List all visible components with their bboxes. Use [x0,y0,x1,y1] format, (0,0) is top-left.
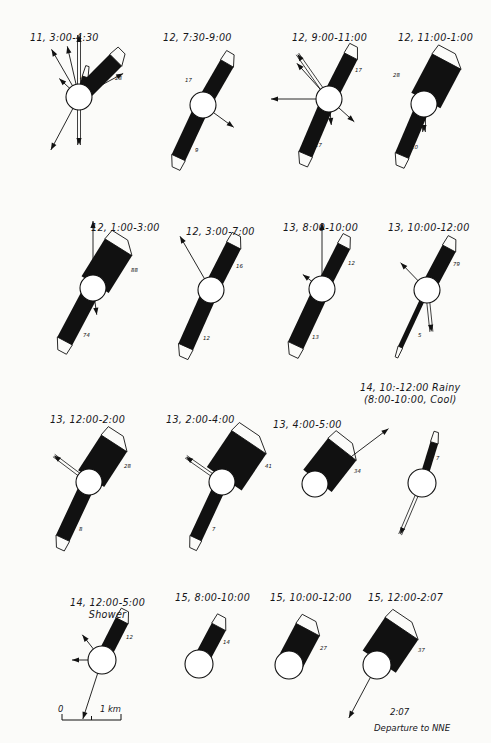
arrow-shaft [83,670,99,719]
plume-vector-layer [0,0,491,743]
observation-circle [363,651,391,679]
panel-title-text: 12, 1:00-3:00 [91,222,160,233]
plume-value-label: 16 [236,263,243,269]
observation-circle [302,471,328,497]
plume-value-label: 10 [411,144,418,150]
arrow-head [180,236,186,243]
arrow-head [271,96,278,101]
plume-value-label: 27 [320,645,327,651]
arrow-1 [427,301,434,332]
plume-value-label: 17 [355,67,362,73]
scale-bar-zero-label: 0 [58,704,63,714]
arrow-shaft [349,675,372,718]
arrow-0 [399,493,419,536]
plume-value-label: 34 [354,468,361,474]
panel-title-text: 12, 3:00-7:00 [186,226,255,237]
panel-title-text: 12, 7:30-9:00 [163,32,232,43]
plume-value-label: 79 [453,261,460,267]
plume-value-label: 37 [418,647,425,653]
panel-title-p9: 13, 12:00-2:00 [50,414,125,426]
arrow-0 [212,111,234,127]
arrow-shaft [51,107,74,150]
plume-value-label: 74 [83,332,90,338]
panel-title-text: 11, 3:00-4:30 [30,32,99,43]
plume-cap [430,431,438,444]
arrow-1 [297,63,322,90]
panel-title-p1: 11, 3:00-4:30 [30,32,99,44]
scale-bar-length-label: 1 km [100,704,121,714]
arrow-head [52,49,58,56]
panel-title-text: 14, 12:00-5:00 [70,597,145,608]
panel-title-p10: 13, 2:00-4:00 [166,414,235,426]
panel-title-p13: 14, 12:00-5:00Shower [70,597,145,621]
panel-p14 [185,614,226,678]
arrow-head [227,121,234,127]
arrow-0 [296,53,324,91]
plume-value-label: 14 [223,639,230,645]
arrow-2 [271,96,318,101]
plume-value-label: 28 [115,75,122,81]
plume-value-label: 13 [312,334,319,340]
panel-title-text: 13, 12:00-2:00 [50,414,125,425]
panel-subtitle-text: (8:00-10:00, Cool) [360,394,461,406]
panel-p4 [395,45,461,168]
panel-p5 [57,221,132,354]
observation-circle [275,651,303,679]
arrow-0 [349,675,372,718]
panel-title-text: 13, 4:00-5:00 [273,419,342,430]
panel-title-p12: 14, 10:-12:00 Rainy(8:00-10:00, Cool) [360,382,461,406]
arrow-head [349,711,355,718]
observation-circle [190,92,216,118]
scale-bar [62,714,121,720]
panel-p16 [349,609,418,718]
observation-circle [80,275,106,301]
arrow-shaft [180,236,206,280]
arrow-2 [66,46,76,86]
panel-title-p4: 12, 11:00-1:00 [398,32,473,44]
panel-title-text: 12, 9:00-11:00 [292,32,367,43]
observation-circle [76,469,102,495]
observation-circle [414,277,440,303]
panel-p10 [185,423,266,551]
observation-circle [411,91,437,117]
arrow-head [51,143,57,150]
panel-p7 [288,223,350,358]
plume-value-label: 7 [212,526,215,532]
panel-title-text: 13, 2:00-4:00 [166,414,235,425]
arrow-3 [337,106,354,121]
plume-value-label: 9 [195,147,198,153]
plume-value-label: 12 [203,335,210,341]
plume-value-label: 28 [393,72,400,78]
arrow-2 [83,670,99,719]
panel-title-text: 13, 8:00-10:00 [283,222,358,233]
panel-title-text: 15, 12:00-2:07 [368,592,443,603]
plume-value-label: 4 [80,75,83,81]
panel-title-p16: 15, 12:00-2:07 [368,592,443,604]
panel-title-p8: 13, 10:00-12:00 [388,222,470,234]
observation-circle [408,469,436,497]
panel-title-p7: 13, 8:00-10:00 [283,222,358,234]
arrow-head [381,429,388,435]
panel-p12 [399,431,439,535]
plume-cap [395,346,402,358]
figure-canvas: 11, 3:00-4:3028412, 7:30-9:0017912, 9:00… [0,0,491,743]
panel-p11 [302,429,388,497]
arrow-7 [51,107,74,150]
arrow-head [303,275,310,281]
plume-value-label: 7 [436,455,439,461]
panel-title-p15: 15, 10:00-12:00 [270,592,352,604]
panel-title-p14: 15, 8:00-10:00 [175,592,250,604]
observation-circle [209,469,235,495]
panel-p3 [271,43,357,167]
observation-circle [66,84,92,110]
panel-title-text: 15, 8:00-10:00 [175,592,250,603]
panel-subtitle-text: Shower [70,609,145,621]
plume-value-label: 12 [126,634,133,640]
panel-title-p11: 13, 4:00-5:00 [273,419,342,431]
plume-value-label: 28 [124,463,131,469]
panel-p8 [395,236,456,358]
arrow-0 [53,454,81,476]
arrow-head [83,712,88,719]
plume-value-label: 41 [265,463,272,469]
panel-p13 [72,608,129,719]
